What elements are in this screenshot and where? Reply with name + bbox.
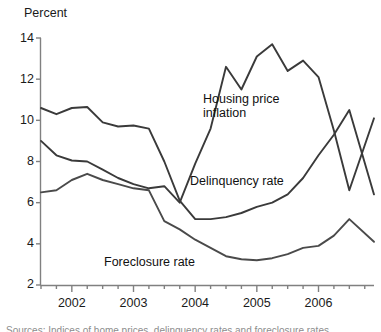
x-tick-label: 2003 xyxy=(120,296,148,310)
axes xyxy=(36,38,374,292)
series-annotation-label: Foreclosure rate xyxy=(104,255,195,269)
x-tick-label: 2005 xyxy=(243,296,271,310)
data-series-layer xyxy=(41,44,374,260)
series-annotation-label: Delinquency rate xyxy=(190,174,284,188)
chart-container: Percent 14 12 10 8 6 4 2 200220032004200… xyxy=(0,0,381,332)
series-annotation-label: Housing price inflation xyxy=(203,92,279,120)
caption-text: Sources: Indices of home prices, delinqu… xyxy=(0,325,381,332)
clipped-caption: Sources: Indices of home prices, delinqu… xyxy=(0,325,381,332)
x-tick-label: 2002 xyxy=(58,296,86,310)
x-tick-label: 2006 xyxy=(305,296,333,310)
chart-plot-area xyxy=(0,0,381,332)
x-tick-label: 2004 xyxy=(181,296,209,310)
